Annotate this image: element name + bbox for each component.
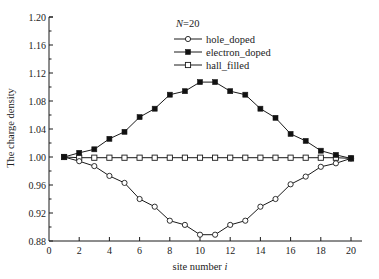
- x-tick-label: 0: [47, 245, 52, 256]
- data-point: [137, 155, 142, 160]
- y-tick-label: 1.12: [29, 68, 47, 79]
- legend-label: hall_filled: [206, 60, 250, 71]
- x-tick-label: 4: [107, 245, 112, 256]
- data-point: [167, 155, 172, 160]
- legend-marker-icon: [185, 62, 190, 67]
- y-tick-label: 1.08: [29, 96, 47, 107]
- x-tick-label: 12: [225, 245, 235, 256]
- data-point: [122, 155, 127, 160]
- axes: 0.880.920.961.001.041.081.121.161.200246…: [29, 12, 363, 257]
- data-point: [122, 129, 127, 134]
- data-point: [198, 80, 203, 85]
- data-point: [349, 156, 354, 161]
- data-point: [182, 155, 187, 160]
- data-point: [213, 80, 218, 85]
- data-point: [243, 92, 248, 97]
- x-tick-label: 16: [286, 245, 296, 256]
- data-point: [152, 204, 157, 209]
- data-point: [258, 106, 263, 111]
- data-point: [167, 218, 172, 223]
- legend-item-electron-doped: electron_doped: [174, 47, 271, 58]
- data-point: [92, 147, 97, 152]
- data-point: [152, 106, 157, 111]
- y-tick-label: 0.88: [29, 236, 47, 247]
- data-point: [228, 222, 233, 227]
- series-line: [64, 157, 351, 235]
- data-point: [137, 115, 142, 120]
- data-point: [288, 182, 293, 187]
- y-tick-label: 0.96: [29, 180, 47, 191]
- x-tick-label: 20: [346, 245, 356, 256]
- x-tick-label: 18: [316, 245, 326, 256]
- series-line: [64, 82, 351, 158]
- y-tick-label: 1.20: [29, 12, 47, 23]
- series-hall-filled: [62, 154, 354, 161]
- chart-annotation: N=20: [175, 18, 199, 29]
- data-point: [107, 173, 112, 178]
- data-point: [182, 89, 187, 94]
- y-axis-title: The charge density: [5, 87, 16, 167]
- data-point: [137, 196, 142, 201]
- data-point: [243, 218, 248, 223]
- data-point: [273, 196, 278, 201]
- data-point: [258, 155, 263, 160]
- annotation-rest: =20: [183, 18, 199, 29]
- data-point: [152, 155, 157, 160]
- data-point: [303, 174, 308, 179]
- data-point: [213, 155, 218, 160]
- data-point: [107, 136, 112, 141]
- data-point: [318, 148, 323, 153]
- legend-label: hole_doped: [206, 34, 256, 45]
- legend-label: electron_doped: [206, 47, 271, 58]
- x-tick-label: 10: [195, 245, 205, 256]
- x-tick-label: 14: [255, 245, 265, 256]
- data-point: [228, 89, 233, 94]
- legend-items: hole_dopedelectron_dopedhall_filled: [174, 34, 271, 71]
- data-point: [318, 155, 323, 160]
- data-point: [273, 115, 278, 120]
- y-tick-label: 1.16: [29, 40, 47, 51]
- data-point: [303, 155, 308, 160]
- y-tick-label: 1.04: [29, 124, 47, 135]
- data-point: [273, 155, 278, 160]
- legend: N=20 hole_dopedelectron_dopedhall_filled: [174, 18, 271, 71]
- data-point: [107, 155, 112, 160]
- data-point: [333, 152, 338, 157]
- y-tick-label: 1.00: [29, 152, 47, 163]
- data-point: [77, 159, 82, 164]
- data-point: [243, 155, 248, 160]
- data-point: [197, 155, 202, 160]
- data-point: [62, 155, 67, 160]
- data-point: [197, 232, 202, 237]
- x-axis-title-text: site number: [173, 261, 225, 272]
- x-tick-label: 2: [77, 245, 82, 256]
- data-point: [258, 204, 263, 209]
- data-point: [288, 155, 293, 160]
- x-axis-title-italic: i: [224, 261, 227, 272]
- data-point: [77, 150, 82, 155]
- legend-item-hole-doped: hole_doped: [174, 34, 256, 45]
- series-electron-doped: [62, 80, 354, 161]
- x-tick-label: 8: [167, 245, 172, 256]
- data-point: [303, 138, 308, 143]
- line-chart: 0.880.920.961.001.041.081.121.161.200246…: [0, 0, 379, 279]
- data-point: [167, 92, 172, 97]
- legend-marker-icon: [185, 36, 190, 41]
- y-tick-label: 0.92: [29, 208, 47, 219]
- series-layer: [62, 80, 354, 238]
- data-point: [92, 155, 97, 160]
- data-point: [213, 232, 218, 237]
- data-point: [288, 131, 293, 136]
- series-hole-doped: [62, 154, 354, 237]
- data-point: [228, 155, 233, 160]
- x-axis-title: site number i: [173, 261, 228, 272]
- x-tick-label: 6: [137, 245, 142, 256]
- legend-item-hall-filled: hall_filled: [174, 60, 250, 71]
- data-point: [318, 164, 323, 169]
- data-point: [333, 161, 338, 166]
- legend-marker-icon: [186, 50, 191, 55]
- data-point: [122, 180, 127, 185]
- data-point: [182, 222, 187, 227]
- data-point: [92, 164, 97, 169]
